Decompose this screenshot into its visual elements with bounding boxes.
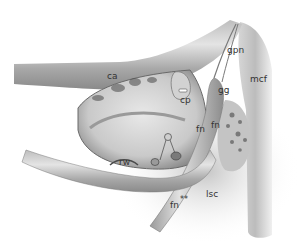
label-mcf: mcf	[250, 75, 267, 84]
illustration-drawing	[0, 0, 303, 246]
label-gg: gg	[218, 86, 229, 95]
anatomical-illustration: ca gpn mcf cp gg fn fn rw lsc fn **	[0, 0, 303, 246]
label-asterisks: **	[180, 196, 188, 204]
label-ca: ca	[107, 72, 117, 81]
label-fn-upper-left: fn	[196, 125, 205, 134]
label-fn-lower: fn	[170, 201, 179, 210]
label-cp: cp	[180, 96, 191, 105]
label-fn-upper-right: fn	[211, 121, 220, 130]
label-rw: rw	[119, 158, 130, 167]
label-gpn: gpn	[227, 46, 244, 55]
label-lsc: lsc	[206, 190, 218, 199]
